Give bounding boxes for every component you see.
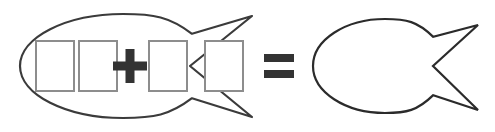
- figure-canvas: fish-equation + = fish-with-boxes fish-p…: [0, 0, 495, 132]
- missing-glyph-box-icon-3: [149, 41, 187, 91]
- equals-icon-bar-top: [264, 54, 294, 62]
- equals-icon-bar-bottom: [264, 70, 294, 78]
- fish-equation-svg: [0, 0, 495, 132]
- missing-glyph-box-icon-2: [79, 41, 117, 91]
- missing-glyph-box-icon-4: [205, 41, 243, 91]
- fish-icon-right: [313, 19, 478, 113]
- equals-icon: [264, 54, 294, 78]
- right-fish-group: [313, 19, 478, 113]
- missing-glyph-box-icon-1: [36, 41, 74, 91]
